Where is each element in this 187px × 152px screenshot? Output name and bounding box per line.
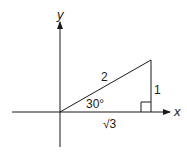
triangle-diagram: y x 2 1 30° √3 (0, 0, 187, 152)
hypotenuse-line (60, 60, 151, 112)
hypotenuse-label: 2 (101, 70, 108, 84)
right-angle-marker (141, 102, 151, 112)
angle-label: 30° (86, 97, 104, 111)
y-axis-label: y (56, 7, 65, 22)
x-axis-label: x (173, 104, 181, 119)
opposite-side-label: 1 (154, 83, 161, 97)
adjacent-side-label: √3 (103, 117, 117, 131)
diagram-canvas: y x 2 1 30° √3 (0, 0, 187, 152)
